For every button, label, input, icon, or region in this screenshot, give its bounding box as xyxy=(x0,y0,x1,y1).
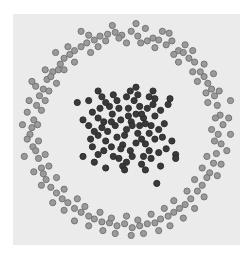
data-point xyxy=(118,146,124,152)
data-point xyxy=(86,98,92,104)
data-point xyxy=(122,221,128,227)
data-point xyxy=(209,86,215,92)
data-point xyxy=(112,230,118,236)
data-point xyxy=(97,33,103,39)
data-point xyxy=(142,121,148,127)
data-point xyxy=(227,131,233,137)
data-point xyxy=(171,209,177,215)
data-point xyxy=(123,126,129,132)
data-point xyxy=(150,101,156,107)
data-point xyxy=(210,160,216,166)
data-point xyxy=(158,216,164,222)
data-point xyxy=(167,223,173,229)
data-point xyxy=(71,59,77,65)
data-point xyxy=(173,155,179,161)
data-point xyxy=(129,123,135,129)
data-point xyxy=(180,215,186,221)
data-point xyxy=(103,99,109,105)
data-point xyxy=(99,94,105,100)
data-point xyxy=(84,40,90,46)
data-point xyxy=(158,163,164,169)
data-point xyxy=(86,213,92,219)
data-point xyxy=(29,125,35,131)
data-point xyxy=(53,175,59,181)
data-point xyxy=(86,32,92,38)
data-point xyxy=(137,103,143,109)
data-point xyxy=(86,123,92,129)
data-point xyxy=(43,177,49,183)
data-point xyxy=(71,218,77,224)
data-point xyxy=(33,148,39,154)
data-point xyxy=(192,177,198,183)
data-point xyxy=(144,105,150,111)
data-point xyxy=(71,48,77,54)
data-point xyxy=(135,217,141,223)
data-point xyxy=(182,42,188,48)
data-point xyxy=(105,128,111,134)
data-point xyxy=(226,115,232,121)
data-point xyxy=(166,30,172,36)
data-point xyxy=(123,40,129,46)
data-point xyxy=(88,136,94,142)
data-point xyxy=(142,25,148,31)
data-point xyxy=(61,55,67,61)
data-point xyxy=(224,148,230,154)
data-point xyxy=(112,29,118,35)
data-point xyxy=(139,161,145,167)
data-point xyxy=(152,45,158,51)
data-point xyxy=(142,167,148,173)
data-point xyxy=(148,155,154,161)
data-point xyxy=(210,71,216,77)
data-point xyxy=(156,150,162,156)
data-point xyxy=(152,220,158,226)
data-point xyxy=(118,117,124,123)
data-point xyxy=(103,165,109,171)
data-point xyxy=(36,93,42,99)
data-point xyxy=(194,188,200,194)
data-point xyxy=(129,153,135,159)
data-point xyxy=(61,207,67,213)
data-point xyxy=(165,101,171,107)
data-point xyxy=(214,102,220,108)
data-point xyxy=(201,74,207,80)
data-point xyxy=(116,35,122,41)
data-point xyxy=(53,80,59,86)
data-point xyxy=(74,99,80,105)
data-point xyxy=(42,67,48,73)
data-point xyxy=(97,105,103,111)
data-point xyxy=(74,196,80,202)
data-point xyxy=(78,28,84,34)
data-point xyxy=(95,88,101,94)
data-point xyxy=(159,28,165,34)
data-point xyxy=(227,98,233,104)
data-point xyxy=(176,205,182,211)
data-point xyxy=(218,161,224,167)
data-point xyxy=(38,182,44,188)
data-point xyxy=(209,126,215,132)
data-point xyxy=(125,105,131,111)
data-point xyxy=(140,230,146,236)
scatter-chart xyxy=(0,0,251,257)
data-point xyxy=(35,155,41,161)
data-point xyxy=(133,21,139,27)
data-point xyxy=(199,165,205,171)
data-point xyxy=(95,115,101,121)
data-point xyxy=(95,44,101,50)
data-point xyxy=(169,38,175,44)
data-point xyxy=(154,180,160,186)
data-point xyxy=(48,74,54,80)
data-point xyxy=(184,188,190,194)
data-point xyxy=(80,117,86,123)
data-point xyxy=(109,22,115,28)
data-point xyxy=(61,186,67,192)
data-point xyxy=(34,102,40,108)
data-point xyxy=(127,88,133,94)
data-point xyxy=(146,148,152,154)
data-point xyxy=(40,171,46,177)
data-point xyxy=(201,194,207,200)
data-point xyxy=(71,205,77,211)
data-point xyxy=(169,138,175,144)
data-point xyxy=(204,175,210,181)
data-point xyxy=(161,121,167,127)
data-point xyxy=(163,146,169,152)
